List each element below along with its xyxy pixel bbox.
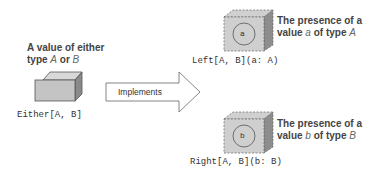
desc-prefix: value <box>277 27 305 38</box>
either-cube-icon <box>35 72 82 101</box>
desc-prefix: value <box>277 130 305 141</box>
desc-type: A <box>349 27 356 38</box>
left-desc-line2: value a of type A <box>277 27 362 39</box>
left-label: Left[A, B](a: A) <box>192 56 278 66</box>
left-desc-line1: The presence of a <box>277 15 362 27</box>
right-label: Right[A, B](b: B) <box>190 157 282 167</box>
implements-label: Implements <box>118 87 162 97</box>
right-cube-icon <box>224 112 273 153</box>
desc-type: B <box>349 130 356 141</box>
type-b: B <box>73 54 80 65</box>
either-caption-line1: A value of either <box>27 42 104 54</box>
right-desc-line1: The presence of a <box>277 118 362 130</box>
caption-or: or <box>57 54 73 65</box>
caption-prefix: type <box>27 54 50 65</box>
type-a: A <box>50 54 57 65</box>
either-caption: A value of either type A or B <box>27 42 104 66</box>
left-inner-value: a <box>240 29 245 39</box>
either-caption-line2: type A or B <box>27 54 104 66</box>
right-description: The presence of a value b of type B <box>277 118 362 142</box>
left-description: The presence of a value a of type A <box>277 15 362 39</box>
either-label: Either[A, B] <box>17 110 82 120</box>
right-inner-value: b <box>240 131 245 141</box>
desc-mid: of type <box>311 130 349 141</box>
right-desc-line2: value b of type B <box>277 130 362 142</box>
desc-mid: of type <box>311 27 349 38</box>
left-cube-icon <box>224 10 273 51</box>
